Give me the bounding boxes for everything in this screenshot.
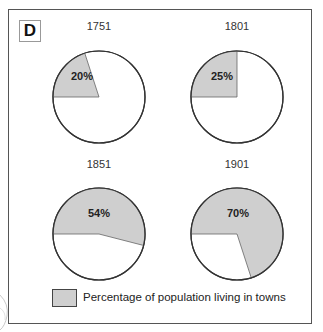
pie-1801: 25% xyxy=(191,51,283,143)
pie-1851: 54% xyxy=(53,188,145,280)
legend-swatch xyxy=(52,289,77,307)
pie-percent-label: 20% xyxy=(71,70,93,82)
pie-percent-label: 70% xyxy=(227,207,249,219)
decorative-flourish xyxy=(0,290,20,332)
legend-label: Percentage of population living in towns xyxy=(83,291,286,303)
pie-percent-label: 54% xyxy=(88,207,110,219)
pie-charts: 20% 25% 54% 70% xyxy=(0,0,323,332)
pie-percent-label: 25% xyxy=(211,70,233,82)
pie-1751: 20% xyxy=(53,51,145,143)
pie-1901: 70% xyxy=(191,188,283,280)
